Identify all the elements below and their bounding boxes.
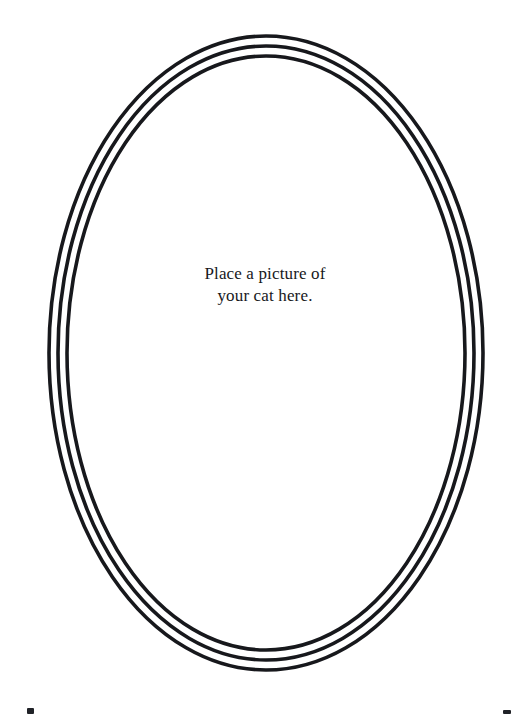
oval-frame-middle-ring — [58, 46, 474, 660]
caption-line-1: Place a picture of — [0, 263, 530, 285]
oval-frame-outer-ring — [49, 36, 483, 670]
oval-frame-inner-ring — [67, 56, 465, 650]
oval-photo-frame — [0, 0, 530, 714]
caption-line-2: your cat here. — [0, 285, 530, 307]
photo-placeholder-caption: Place a picture of your cat here. — [0, 263, 530, 308]
page-canvas: Place a picture of your cat here. — [0, 0, 530, 714]
bottom-left-edge-mark — [27, 708, 34, 714]
bottom-right-edge-mark — [503, 710, 511, 714]
